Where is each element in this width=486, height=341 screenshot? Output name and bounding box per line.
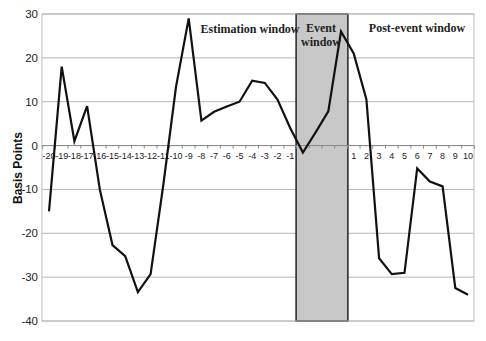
estimation-window-label: Estimation window	[200, 22, 299, 36]
y-tick-label: -20	[21, 227, 38, 239]
x-tick-label: -10	[169, 151, 182, 161]
y-axis-label: Basis Points	[11, 132, 25, 204]
x-axis-tick-labels: -20-19-18-17-16-15-14-13-12-11-10-9-8-7-…	[42, 151, 473, 161]
x-tick-label: -3	[261, 151, 269, 161]
x-tick-label: 7	[427, 151, 432, 161]
y-tick-label: 20	[25, 52, 38, 64]
x-tick-label: -18	[68, 151, 81, 161]
x-tick-label: -7	[210, 151, 218, 161]
x-tick-label: -1	[286, 151, 294, 161]
x-tick-label: 2	[364, 151, 369, 161]
x-tick-label: 5	[402, 151, 407, 161]
x-tick-label: 8	[440, 151, 445, 161]
x-tick-label: 6	[415, 151, 420, 161]
x-tick-label: -14	[119, 151, 132, 161]
post-event-window-label: Post-event window	[369, 21, 466, 35]
x-tick-label: -2	[274, 151, 282, 161]
x-tick-label: -17	[81, 151, 94, 161]
x-tick-label: -15	[106, 151, 119, 161]
x-tick-label: 9	[453, 151, 458, 161]
y-tick-label: 10	[25, 96, 38, 108]
x-tick-label: -9	[185, 151, 193, 161]
x-tick-label: -12	[144, 151, 157, 161]
x-tick-label: -5	[235, 151, 243, 161]
event-window-label-line2: window	[301, 35, 341, 49]
gridlines	[42, 14, 474, 321]
x-axis-zero-line	[42, 146, 474, 149]
y-tick-label: 0	[32, 140, 38, 152]
x-tick-label: -4	[248, 151, 256, 161]
x-tick-label: 3	[377, 151, 382, 161]
y-tick-label: -30	[21, 271, 38, 283]
plot-area-frame	[42, 14, 474, 321]
event-study-line-chart: 3020100-10-20-30-40 -20-19-18-17-16-15-1…	[0, 0, 486, 341]
x-tick-label: -13	[131, 151, 144, 161]
x-tick-label: 4	[389, 151, 394, 161]
x-tick-label: 1	[351, 151, 356, 161]
x-tick-label: 10	[463, 151, 473, 161]
y-tick-label: 30	[25, 8, 38, 20]
x-tick-label: -19	[55, 151, 68, 161]
x-tick-label: -6	[223, 151, 231, 161]
y-tick-label: -40	[21, 315, 38, 327]
event-window-shaded-region	[296, 14, 348, 321]
event-window-label-line1: Event	[306, 21, 336, 35]
x-tick-label: -8	[197, 151, 205, 161]
